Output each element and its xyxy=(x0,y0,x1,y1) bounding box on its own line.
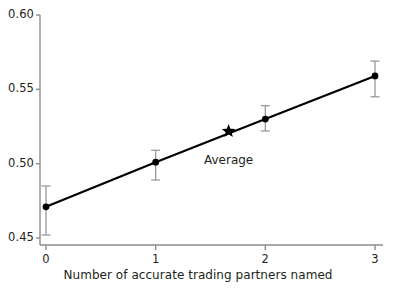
chart-container: 0.450.500.550.60 0123 Average Number of … xyxy=(0,0,396,295)
x-tick-label: 3 xyxy=(371,254,378,266)
y-tick-label: 0.50 xyxy=(0,158,34,170)
x-tick-label: 2 xyxy=(262,254,269,266)
chart-plot-area xyxy=(0,0,396,295)
x-tick-label: 1 xyxy=(152,254,159,266)
y-tick-label: 0.60 xyxy=(0,9,34,21)
chart-series xyxy=(42,61,380,235)
x-axis-title: Number of accurate trading partners name… xyxy=(0,268,396,282)
x-tick-label: 0 xyxy=(42,254,49,266)
y-tick-label: 0.55 xyxy=(0,84,34,96)
y-tick-label: 0.45 xyxy=(0,232,34,244)
average-marker-label: Average xyxy=(204,153,253,167)
chart-axes xyxy=(36,15,383,250)
